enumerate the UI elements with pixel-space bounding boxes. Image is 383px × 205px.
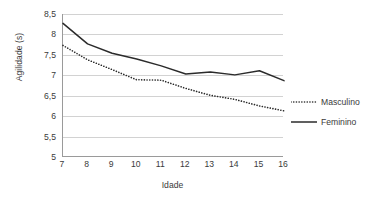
y-tick-label: 6,5: [22, 91, 56, 100]
y-tick-label: 8,5: [22, 10, 56, 19]
y-tick-label: 8: [22, 30, 56, 39]
x-tick-label: 10: [124, 160, 148, 169]
x-tick-label: 14: [222, 160, 246, 169]
x-tick-label: 11: [148, 160, 172, 169]
y-axis-tick-labels: 8,587,576,565,55: [22, 14, 56, 157]
series-container: [63, 14, 284, 157]
y-tick-label: 7: [22, 71, 56, 80]
x-tick-label: 15: [246, 160, 270, 169]
x-tick-label: 7: [50, 160, 74, 169]
series-line: [63, 23, 284, 80]
series-line: [63, 45, 284, 110]
y-tick-label: 7,5: [22, 51, 56, 60]
x-axis-title: Idade: [62, 180, 283, 190]
line-chart: Agilidade (s) 8,587,576,565,55 789101112…: [0, 0, 383, 205]
legend-item[interactable]: Masculino: [291, 92, 383, 112]
legend-item[interactable]: Feminino: [291, 112, 383, 132]
chart-legend: MasculinoFeminino: [291, 92, 383, 132]
x-tick-label: 9: [99, 160, 123, 169]
y-tick-label: 6: [22, 112, 56, 121]
legend-label: Masculino: [321, 97, 360, 107]
x-tick-label: 16: [271, 160, 295, 169]
plot-area: [62, 14, 283, 157]
x-axis-tick-labels: 78910111213141516: [62, 160, 283, 174]
x-tick-label: 12: [173, 160, 197, 169]
legend-label: Feminino: [321, 117, 356, 127]
y-tick-label: 5,5: [22, 132, 56, 141]
x-tick-label: 8: [75, 160, 99, 169]
legend-marker-dotted: [291, 97, 317, 107]
x-tick-label: 13: [197, 160, 221, 169]
legend-marker-solid: [291, 117, 317, 127]
